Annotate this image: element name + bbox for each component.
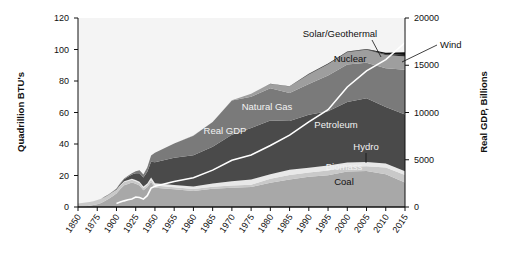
- y-tick-label: 0: [64, 202, 69, 212]
- annotation-nuclear: Nuclear: [334, 53, 367, 64]
- y2-tick-label: 10000: [414, 108, 439, 118]
- y-tick-label: 20: [59, 171, 69, 181]
- y-tick-label: 60: [59, 108, 69, 118]
- annotation-real-gdp: Real GDP: [204, 125, 247, 136]
- y-tick-label: 120: [54, 13, 69, 23]
- y-axis-title: Quadrillion BTU's: [15, 72, 26, 152]
- annotation-wind: Wind: [440, 39, 462, 50]
- y2-axis-title: Real GDP, Billions: [478, 71, 489, 153]
- energy-gdp-stacked-area-chart: 020406080100120 05000100001500020000 185…: [0, 0, 508, 258]
- y-tick-label: 80: [59, 76, 69, 86]
- y-tick-label: 100: [54, 45, 69, 55]
- annotation-petroleum: Petroleum: [314, 119, 357, 130]
- annotation-coal: Coal: [334, 176, 354, 187]
- y-tick-label: 40: [59, 139, 69, 149]
- y2-tick-label: 15000: [414, 60, 439, 70]
- annotation-solar-geothermal: Solar/Geothermal: [303, 28, 377, 39]
- annotation-natural-gas: Natural Gas: [242, 101, 293, 112]
- annotation-biomass: Biomass: [326, 161, 363, 172]
- annotation-hydro: Hydro: [353, 141, 378, 152]
- y2-tick-label: 20000: [414, 13, 439, 23]
- y2-tick-label: 0: [414, 202, 419, 212]
- y2-tick-label: 5000: [414, 155, 434, 165]
